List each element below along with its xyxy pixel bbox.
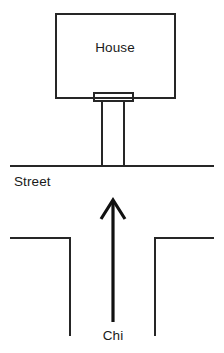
road-left-edge <box>10 238 70 336</box>
diagram-canvas: House Street Chi <box>0 0 224 353</box>
chi-label: Chi <box>103 328 124 343</box>
road-right-edge <box>155 238 214 336</box>
house-label: House <box>95 40 135 55</box>
street-label: Street <box>14 174 51 189</box>
house-outline <box>56 14 175 98</box>
chi-junction-diagram: House Street Chi <box>0 0 224 353</box>
